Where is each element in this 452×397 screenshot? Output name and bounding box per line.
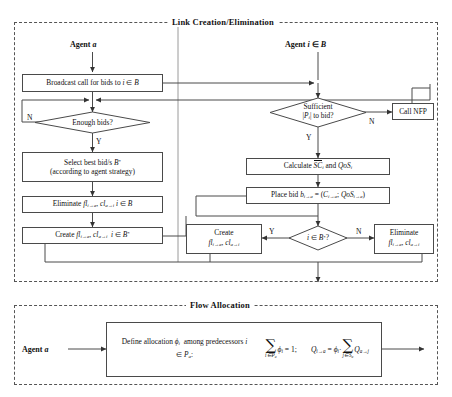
node-create-left: Create fli→a, cla→i i ∈ B*	[22, 227, 163, 244]
node-broadcast-call: Broadcast call for bids to i ∈ B	[22, 74, 163, 92]
formula-flow-allocation: Qi→a = ϕi· ∑ j∈Sa Qa→j	[311, 339, 369, 360]
decision-enough-bids-label: Enough bids?	[35, 112, 150, 133]
decision-in-best-set-label: i ∈ B*?	[289, 226, 347, 250]
node-select-best-bids: Select best bid/s B* (according to agent…	[22, 152, 163, 182]
formula-weight-sum: ∑ i∈Pa ϕi = 1;	[264, 339, 297, 360]
branch-label-enough-bids-yes: Y	[96, 138, 101, 146]
figure-canvas: Link Creation/Elimination Flow Allocatio…	[0, 0, 452, 397]
summation-symbol-2: ∑ j∈Sa	[343, 339, 354, 360]
flow-agent-a-label: Agent a	[22, 345, 48, 354]
node-place-bid: Place bid bi→a = (Ci→a; QoSi→a)	[246, 187, 390, 204]
branch-label-sufficient-yes: Y	[306, 134, 311, 142]
column-header-agent-a: Agent a	[70, 40, 96, 49]
branch-label-inB-no: N	[356, 228, 361, 236]
panel-link-creation-title: Link Creation/Elimination	[168, 17, 278, 27]
branch-label-inB-yes: Y	[269, 228, 274, 236]
decision-sufficient-capacity-label: Sufficient |Pi| to bid?	[270, 98, 366, 127]
column-header-agent-i: Agent i ∈ B	[285, 40, 326, 49]
node-call-nfp: Call NFP	[392, 103, 434, 120]
node-eliminate-right: Eliminate fli→a, cla→i	[374, 224, 434, 254]
branch-label-enough-bids-no: N	[27, 114, 32, 122]
node-define-allocation: Define allocation ϕi among predecessors …	[106, 322, 382, 377]
decision-in-best-set: i ∈ B*?	[289, 226, 347, 250]
panel-flow-allocation-title: Flow Allocation	[186, 300, 254, 310]
node-eliminate-left: Eliminate fli→a, cla→i i ∈ B	[22, 196, 163, 213]
decision-sufficient-capacity: Sufficient |Pi| to bid?	[270, 98, 366, 127]
node-calculate-sc-qos: Calculate SCi and QoSi	[246, 158, 390, 175]
node-create-right: Create fli→a, cla→i	[186, 224, 262, 254]
decision-enough-bids: Enough bids?	[35, 112, 150, 133]
define-allocation-text: Define allocation ϕi among predecessors …	[119, 337, 250, 362]
branch-label-sufficient-no: N	[369, 118, 374, 126]
summation-symbol-1: ∑ i∈Pa	[265, 339, 276, 360]
